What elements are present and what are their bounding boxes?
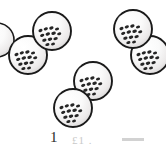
sphere-diagram (0, 0, 166, 149)
sphere-top-right-upper (114, 10, 152, 48)
sphere-top-left-upper (33, 12, 71, 50)
caption-number: 1 (50, 131, 58, 145)
caption-dash (122, 138, 144, 141)
figure-container: 1 £1 . (0, 0, 166, 149)
caption-trailing-text: £1 . (72, 135, 93, 146)
sphere-bottom (54, 89, 92, 127)
figure-caption: 1 £1 . (0, 131, 166, 149)
